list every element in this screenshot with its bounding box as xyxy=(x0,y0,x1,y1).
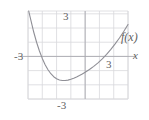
function-curve xyxy=(29,11,128,81)
grid-lines xyxy=(28,11,128,99)
axis-lines xyxy=(18,11,136,99)
x-axis-tick-label-negative: -3 xyxy=(14,51,23,62)
x-axis-tick-label-positive: 3 xyxy=(106,59,112,70)
x-axis-name-label: x xyxy=(133,50,138,61)
y-axis-tick-label-positive: 3 xyxy=(63,11,69,22)
function-label: f(x) xyxy=(121,31,138,43)
y-axis-tick-label-negative: -3 xyxy=(57,100,66,111)
function-graph-figure: 3 -3 3 -3 x f(x) xyxy=(0,0,149,120)
